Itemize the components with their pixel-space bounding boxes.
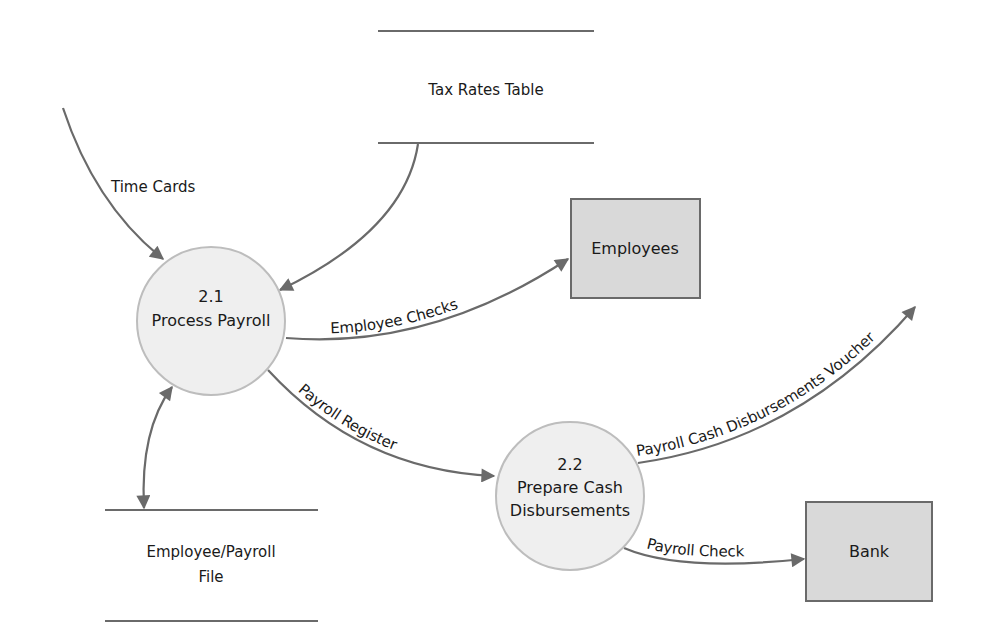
flow-employee-checks: Employee Checks [286,259,568,339]
process-number: 2.2 [557,455,582,474]
data-store-tax-rates: Tax Rates Table [378,31,594,143]
flow-arrow [280,144,418,290]
flow-tax-rates [280,144,418,290]
process-number: 2.1 [198,287,223,306]
flow-label: Payroll Check [645,535,745,561]
store-label: Tax Rates Table [427,81,543,99]
entity-employees: Employees [571,199,700,298]
process-name-line2: Disbursements [510,501,630,520]
entity-bank: Bank [806,502,932,601]
flow-arrow [286,259,568,339]
process-name: Process Payroll [152,311,271,330]
process-2-2: 2.2 Prepare Cash Disbursements [496,422,644,570]
flow-label: Time Cards [110,178,196,196]
store-label-line1: Employee/Payroll [146,543,275,561]
flow-employee-payroll-file-io [144,387,172,508]
flow-arrow-bidirectional [144,387,172,508]
process-name-line1: Prepare Cash [517,478,623,497]
entity-label: Bank [849,542,890,561]
flow-payroll-check: Payroll Check [624,535,804,564]
flow-label: Payroll Register [295,380,400,454]
store-label-line2: File [198,568,223,586]
flow-label: Employee Checks [330,295,460,337]
flow-payroll-register: Payroll Register [268,370,494,476]
data-flow-diagram: Tax Rates Table Employee/Payroll File Ti… [0,0,983,627]
entity-label: Employees [591,239,679,258]
process-2-1: 2.1 Process Payroll [137,247,285,395]
flow-time-cards: Time Cards [63,108,196,259]
flow-label: Payroll Cash Disbursements Voucher [635,328,879,461]
data-store-employee-payroll-file: Employee/Payroll File [105,510,318,621]
flow-payroll-cash-disbursements-voucher: Payroll Cash Disbursements Voucher [635,307,915,463]
